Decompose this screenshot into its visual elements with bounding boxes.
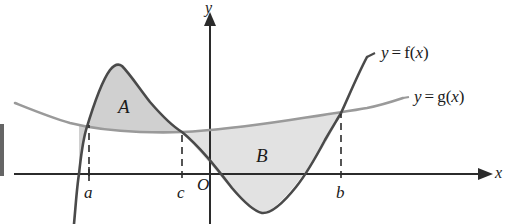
figure-canvas: y x O a c b A B y=f(x) y=g(x) (0, 0, 512, 224)
curve-label-f: y=f(x) (381, 44, 429, 61)
curve-label-f-fn: f( (404, 43, 415, 62)
marker-label-c: c (177, 184, 185, 201)
curve-label-g-y: y (414, 87, 422, 106)
marker-label-b: b (336, 184, 345, 201)
leader-line-g (403, 97, 409, 98)
curve-label-g-fn: g( (437, 87, 451, 106)
origin-label: O (197, 176, 209, 193)
graph-svg (0, 0, 512, 224)
curve-label-g-close: ) (459, 87, 465, 106)
leader-line-f (367, 53, 375, 57)
curve-label-f-eq: = (392, 43, 402, 62)
curve-label-f-y: y (381, 43, 389, 62)
curve-label-f-var: x (415, 43, 423, 62)
curve-label-g-var: x (451, 87, 459, 106)
region-label-a: A (118, 97, 130, 116)
curve-label-f-close: ) (423, 43, 429, 62)
x-axis-label: x (495, 165, 502, 181)
region-label-b: B (256, 146, 268, 165)
curve-label-g: y=g(x) (414, 88, 465, 105)
y-axis-label: y (205, 0, 212, 16)
scan-edge-artifact (0, 124, 4, 176)
marker-label-a: a (84, 184, 93, 201)
curve-label-g-eq: = (425, 87, 435, 106)
x-axis-arrowhead (478, 168, 493, 180)
